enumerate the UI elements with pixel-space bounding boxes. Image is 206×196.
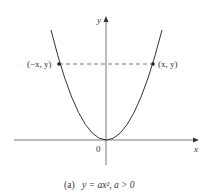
caption-equation: y = ax², a > 0 bbox=[81, 180, 135, 190]
origin-label: 0 bbox=[96, 144, 101, 154]
y-axis-label: y bbox=[96, 15, 101, 25]
point-left-label: (−x, y) bbox=[27, 59, 52, 69]
parabola-curve bbox=[51, 30, 162, 140]
point-right bbox=[151, 62, 155, 66]
x-axis-label: x bbox=[193, 144, 198, 154]
x-axis-arrow-icon bbox=[193, 138, 199, 143]
point-right-label: (x, y) bbox=[158, 59, 178, 69]
y-axis-arrow-icon bbox=[104, 16, 109, 22]
caption-prefix: (a) bbox=[64, 180, 75, 191]
point-left bbox=[57, 62, 61, 66]
parabola-diagram: (−x, y) (x, y) y x 0 (a) y = ax², a > 0 bbox=[0, 0, 206, 196]
